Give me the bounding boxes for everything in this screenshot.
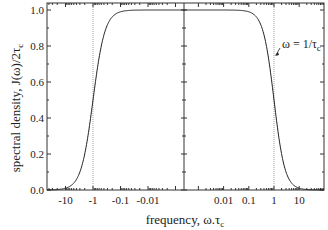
y-tick-label: 0.0 — [30, 184, 44, 196]
y-tick-label: 1.0 — [30, 4, 44, 16]
y-tick-label: 0.2 — [30, 148, 44, 160]
plot-area: 0.00.20.40.60.81.0-10-1-0.1-0.010.010.11… — [30, 3, 324, 206]
annotation-label: ω = 1/τc — [282, 37, 321, 53]
spectral-density-chart: 0.00.20.40.60.81.0-10-1-0.1-0.010.010.11… — [0, 0, 328, 230]
y-tick-label: 0.6 — [30, 76, 44, 88]
y-axis-title: spectral density, J(ω)/2τc — [8, 44, 25, 173]
x-tick-label: 0.01 — [214, 194, 233, 206]
x-tick-label: 1 — [271, 194, 277, 206]
plot-frame — [47, 3, 324, 190]
x-tick-label: 0.1 — [242, 194, 256, 206]
curve-negative-branch — [47, 10, 182, 190]
x-axis-title: frequency, ω.τc — [146, 212, 225, 229]
y-tick-label: 0.4 — [30, 112, 44, 124]
x-tick-label: -10 — [58, 194, 73, 206]
y-tick-label: 0.8 — [30, 40, 44, 52]
x-tick-label: -0.01 — [137, 194, 160, 206]
x-tick-label: 10 — [294, 194, 306, 206]
x-tick-label: -1 — [88, 194, 97, 206]
x-tick-label: -0.1 — [112, 194, 129, 206]
